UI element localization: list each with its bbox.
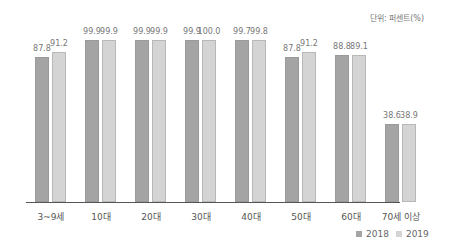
- bar-group: 38.638.970세 이상: [376, 0, 426, 251]
- category-label: 70세 이상: [376, 210, 426, 223]
- bar-2018: [135, 40, 149, 202]
- bar-2019: [302, 52, 316, 202]
- legend-label-2018: 2018: [366, 229, 389, 239]
- category-label: 50대: [276, 210, 326, 223]
- bar-2018: [385, 124, 399, 202]
- bar-2019: [402, 124, 416, 202]
- bar-group: 99.799.840대: [226, 0, 276, 251]
- bar-2018: [285, 57, 299, 202]
- value-label-2019: 99.9: [147, 27, 171, 36]
- bar-chart: 단위: 퍼센트(%) 87.891.23~9세99.999.910대99.999…: [0, 0, 449, 251]
- bar-2019: [102, 40, 116, 202]
- bar-group: 88.889.160대: [326, 0, 376, 251]
- category-label: 3~9세: [26, 210, 76, 223]
- value-label-2019: 38.9: [397, 111, 421, 120]
- legend-label-2019: 2019: [406, 229, 429, 239]
- value-label-2019: 91.2: [297, 39, 321, 48]
- category-label: 40대: [226, 210, 276, 223]
- bar-2018: [235, 40, 249, 202]
- x-axis-line: [26, 202, 400, 203]
- value-label-2019: 99.9: [97, 27, 121, 36]
- bar-group: 87.891.250대: [276, 0, 326, 251]
- bar-2018: [35, 57, 49, 202]
- bar-group: 99.9100.030대: [176, 0, 226, 251]
- bar-2019: [202, 40, 216, 202]
- bar-2019: [52, 52, 66, 202]
- bar-group: 99.999.910대: [76, 0, 126, 251]
- bar-2018: [335, 55, 349, 202]
- bar-group: 99.999.920대: [126, 0, 176, 251]
- bar-2018: [85, 40, 99, 202]
- legend: 2018 2019: [356, 229, 429, 239]
- category-label: 20대: [126, 210, 176, 223]
- bar-2019: [152, 40, 166, 202]
- bar-2019: [352, 55, 366, 202]
- value-label-2019: 91.2: [47, 39, 71, 48]
- legend-swatch-2019: [396, 231, 402, 237]
- category-label: 10대: [76, 210, 126, 223]
- bar-2018: [185, 40, 199, 202]
- category-label: 60대: [326, 210, 376, 223]
- category-label: 30대: [176, 210, 226, 223]
- bar-2019: [252, 40, 266, 202]
- legend-swatch-2018: [356, 231, 362, 237]
- value-label-2019: 99.8: [247, 27, 271, 36]
- bar-group: 87.891.23~9세: [26, 0, 76, 251]
- value-label-2019: 100.0: [197, 27, 221, 36]
- value-label-2019: 89.1: [347, 42, 371, 51]
